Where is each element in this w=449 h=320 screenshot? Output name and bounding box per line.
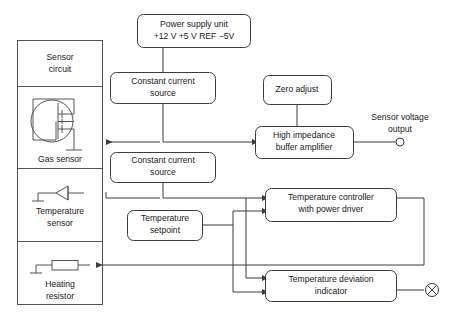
zero-adjust-block[interactable]: Zero adjust xyxy=(264,76,332,105)
temperature-controller-block[interactable]: Temperature controller with power driver xyxy=(266,189,397,222)
ccs-bottom-label-line1: Constant current xyxy=(131,155,195,165)
deviation-indicator-block[interactable]: Temperature deviation indicator xyxy=(266,271,397,302)
power-supply-block[interactable]: Power supply unit +12 V +5 V REF −5V xyxy=(138,15,251,48)
sensor-voltage-output-label: Sensor voltage output xyxy=(371,112,429,134)
sensor-circuit-label-line2: circuit xyxy=(49,64,72,74)
buffer-amp-label-line2: buffer amplifier xyxy=(276,142,333,152)
power-supply-label-line1: Power supply unit xyxy=(160,19,228,29)
heating-resistor-label-line1: Heating xyxy=(45,279,75,289)
ccs-top-label-line2: source xyxy=(150,88,176,98)
ccs-bottom-label-line2: source xyxy=(150,167,176,177)
temperature-sensor-label-line1: Temperature xyxy=(36,206,84,216)
constant-current-source-bottom-block[interactable]: Constant current source xyxy=(111,153,216,183)
gas-sensor-label-line1: Gas sensor xyxy=(38,154,82,164)
temperature-setpoint-block[interactable]: Temperature setpoint xyxy=(128,211,203,241)
sensor-voltage-label-line2: output xyxy=(388,124,413,134)
crossed-circle-lamp-icon xyxy=(426,284,439,297)
buffer-amp-label-line1: High impedance xyxy=(273,130,335,140)
buffer-amplifier-block[interactable]: High impedance buffer amplifier xyxy=(256,127,354,159)
controller-label-line1: Temperature controller xyxy=(288,192,374,202)
block-diagram: Sensor circuit xyxy=(0,0,449,320)
constant-current-source-top-block[interactable]: Constant current source xyxy=(111,73,216,104)
indicator-label-line2: indicator xyxy=(315,286,348,296)
indicator-label-line1: Temperature deviation xyxy=(288,274,373,284)
power-supply-label-line2: +12 V +5 V REF −5V xyxy=(154,31,235,41)
ccs-top-label-line1: Constant current xyxy=(131,76,195,86)
sensor-voltage-label-line1: Sensor voltage xyxy=(371,112,429,122)
diagram-canvas: Sensor circuit xyxy=(0,0,449,320)
temperature-sensor-label-line2: sensor xyxy=(47,218,73,228)
heating-resistor-label-line2: resistor xyxy=(46,291,74,301)
setpoint-label-line2: setpoint xyxy=(150,225,181,235)
setpoint-label-line1: Temperature xyxy=(141,213,189,223)
sensor-circuit-column: Sensor circuit xyxy=(18,41,103,305)
sensor-circuit-label-line1: Sensor xyxy=(46,52,73,62)
controller-label-line2: with power driver xyxy=(298,204,364,214)
zero-adjust-label: Zero adjust xyxy=(276,84,320,94)
sensor-voltage-terminal xyxy=(396,138,404,146)
